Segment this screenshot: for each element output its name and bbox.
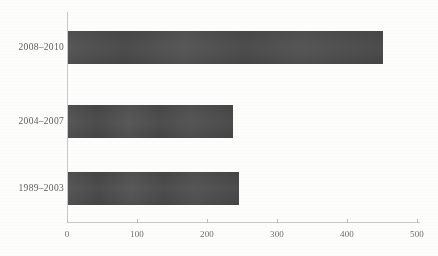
x-tick-label-400: 400	[340, 229, 354, 239]
x-tick-0	[67, 219, 68, 223]
x-axis-line	[67, 222, 420, 223]
x-tick-400	[347, 219, 348, 223]
bar-2008-2010	[68, 31, 383, 64]
bar-1989-2003	[68, 172, 239, 205]
chart-page: 0 100 200 300 400 500 2008–2010 2004–200…	[0, 0, 438, 256]
x-tick-500	[417, 219, 418, 223]
bar-chart: 0 100 200 300 400 500 2008–2010 2004–200…	[0, 0, 438, 256]
category-label-2008-2010: 2008–2010	[19, 42, 64, 52]
x-tick-label-0: 0	[65, 229, 70, 239]
x-tick-label-300: 300	[270, 229, 284, 239]
category-label-1989-2003: 1989–2003	[19, 183, 64, 193]
category-label-2004-2007: 2004–2007	[19, 116, 64, 126]
x-tick-200	[207, 219, 208, 223]
x-tick-label-200: 200	[200, 229, 214, 239]
bar-2004-2007	[68, 105, 233, 138]
x-tick-300	[277, 219, 278, 223]
x-tick-label-100: 100	[130, 229, 144, 239]
x-tick-100	[137, 219, 138, 223]
x-tick-label-500: 500	[410, 229, 424, 239]
